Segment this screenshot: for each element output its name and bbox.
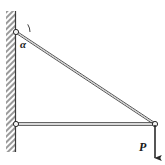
diagonal-tie-edge-lower xyxy=(16,33,155,125)
angle-label: α xyxy=(20,39,26,50)
diagonal-tie-edge-upper xyxy=(16,31,155,123)
statics-diagram-figure: α P xyxy=(0,0,165,165)
diagonal-tie-member xyxy=(16,31,155,125)
load-label: P xyxy=(139,141,146,153)
angle-arc xyxy=(28,24,30,32)
diagonal-tie-core xyxy=(16,32,155,124)
top-pin-joint xyxy=(13,29,18,34)
horizontal-strut-member xyxy=(16,123,155,126)
bottom-pin-joint xyxy=(13,121,18,126)
